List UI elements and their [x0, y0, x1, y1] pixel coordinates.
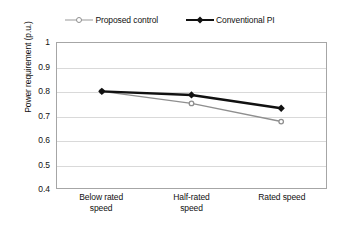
x-axis-tick-labels: Below ratedspeedHalf-ratedspeedRated spe…	[56, 192, 327, 226]
legend-label-proposed-control: Proposed control	[95, 15, 158, 25]
chart-figure: Proposed control Conventional PI Power r…	[0, 0, 340, 232]
diamond-marker-icon	[188, 91, 195, 98]
circle-marker-icon	[189, 101, 194, 106]
legend-marker-conventional-pi	[186, 15, 214, 25]
y-tick-label: 0.4	[20, 184, 50, 194]
legend-entry-conventional-pi: Conventional PI	[186, 15, 275, 25]
legend-entry-proposed-control: Proposed control	[65, 15, 158, 25]
plot-area	[56, 42, 327, 189]
legend-label-conventional-pi: Conventional PI	[216, 15, 275, 25]
x-tick-label: Rated speed	[237, 192, 327, 226]
y-axis-title: Power requirement (p.u.)	[21, 0, 35, 152]
chart-legend: Proposed control Conventional PI	[0, 11, 340, 29]
series-conventional-pi	[98, 88, 285, 112]
x-tick-label: Below ratedspeed	[56, 192, 146, 226]
diamond-marker-icon	[98, 88, 105, 95]
diamond-marker-icon	[278, 105, 285, 112]
diamond-marker-icon	[197, 16, 204, 23]
legend-marker-proposed-control	[65, 15, 93, 25]
data-series-layer	[57, 43, 326, 188]
circle-marker-icon	[76, 17, 82, 23]
y-tick-label: 0.5	[20, 160, 50, 170]
x-tick-label: Half-ratedspeed	[146, 192, 236, 226]
circle-marker-icon	[279, 119, 284, 124]
